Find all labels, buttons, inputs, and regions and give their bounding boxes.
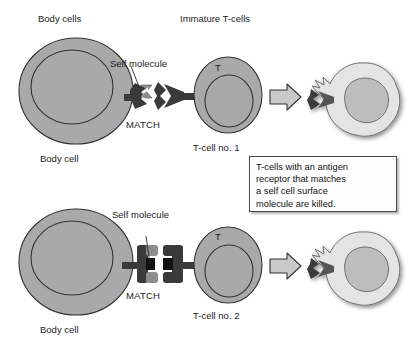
killed-cell-2 — [307, 232, 400, 305]
caption-line-2: receptor that matches — [256, 173, 391, 185]
process-arrow-1 — [270, 84, 301, 110]
caption-line-3: a self cell surface — [256, 185, 391, 197]
heading-body-cells: Body cells — [38, 13, 81, 24]
caption-line-1: T-cells with an antigen — [256, 161, 391, 173]
body-cell-2-label: Body cell — [40, 324, 79, 335]
self-molecule-2 — [137, 245, 158, 283]
t-cell-2-label: T-cell no. 2 — [193, 310, 239, 321]
diagram-canvas: Body cells Immature T-cells Self molecul… — [0, 0, 413, 351]
row-1-group — [19, 38, 400, 144]
t-cell-1-label: T-cell no. 1 — [193, 142, 239, 153]
row-2-group — [19, 209, 400, 315]
body-cell-1 — [19, 38, 133, 144]
caption-box: T-cells with an antigen receptor that ma… — [249, 156, 397, 212]
self-molecule-label-2: Self molecule — [112, 209, 169, 220]
heading-immature-tcells: Immature T-cells — [180, 13, 250, 24]
process-arrow-2 — [270, 253, 301, 279]
match-label-2: MATCH — [126, 290, 160, 301]
killed-cell-1 — [307, 63, 400, 136]
match-label-1: MATCH — [126, 119, 160, 130]
t-cell-2-mark: T — [215, 231, 221, 242]
body-cell-1-label: Body cell — [40, 153, 79, 164]
self-molecule-label-1: Self molecule — [110, 58, 167, 69]
self-molecule-1 — [130, 83, 152, 109]
t-cell-1 — [194, 57, 262, 133]
t-cell-2 — [194, 227, 262, 303]
t-cell-1-mark: T — [215, 62, 221, 73]
caption-line-4: molecule are killed. — [256, 198, 391, 210]
body-cell-2 — [19, 209, 133, 315]
